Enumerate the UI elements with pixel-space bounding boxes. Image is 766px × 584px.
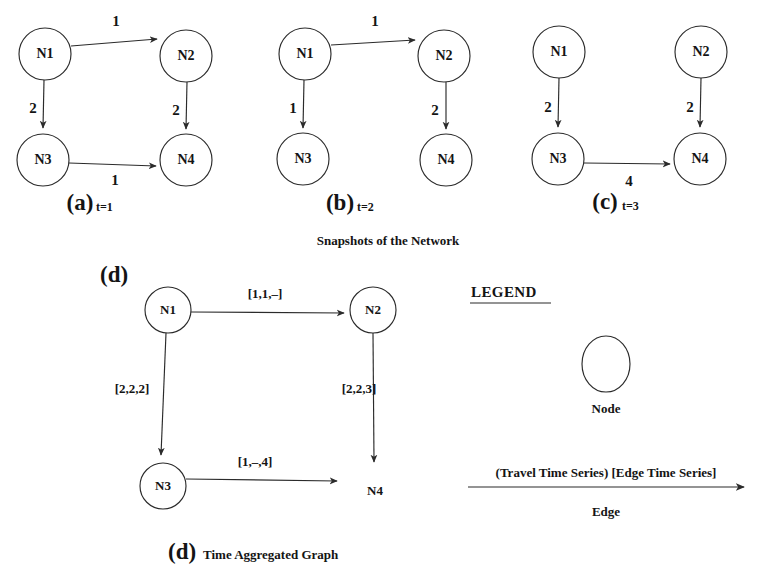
- panel-c-tag: (c): [592, 189, 618, 214]
- panel-a-node-n1-label: N1: [36, 46, 53, 61]
- panel-d-edge-n1-n3-series: [2,2,2]: [115, 381, 150, 396]
- panel-a-edge-n1-n2-weight: 1: [112, 13, 120, 29]
- panel-d-node-n1-label: N1: [160, 302, 176, 317]
- panel-d-node-n4-label: N4: [367, 483, 383, 498]
- panel-d-edge-n3-n4-series: [1,–,4]: [238, 454, 273, 469]
- legend: LEGEND Node (Travel Time Series) [Edge T…: [468, 284, 744, 519]
- panel-d-node-n3-label: N3: [155, 478, 171, 493]
- figure-canvas: N1 N2 N3 N4 1 2 2 1 (a) t=1 N1 N2: [0, 0, 766, 584]
- panel-d-edge-n3-n4: [186, 479, 337, 481]
- panel-a-edge-n2-n4-weight: 2: [172, 102, 180, 118]
- panel-b: N1 N2 N3 N4 1 1 2 (b) t=2: [277, 13, 472, 215]
- panel-a-node-n4-label: N4: [177, 152, 194, 167]
- panel-b-edge-n1-n2-weight: 1: [371, 13, 379, 29]
- panel-d-edge-n1-n2: [191, 312, 344, 313]
- panel-d-edge-n2-n4: [373, 333, 374, 462]
- panel-c-node-n4-label: N4: [691, 151, 708, 166]
- panel-b-edge-n1-n2: [331, 40, 415, 45]
- panel-a: N1 N2 N3 N4 1 2 2 1 (a) t=1: [17, 13, 212, 215]
- panel-b-node-n3-label: N3: [294, 151, 311, 166]
- panel-d-tag: (d): [100, 262, 128, 287]
- panel-b-node-n2-label: N2: [435, 48, 452, 63]
- panel-d-edge-n1-n2-series: [1,1,–]: [248, 286, 283, 301]
- panel-a-tag: (a): [67, 190, 94, 215]
- time-aggregated-graph-figure: N1 N2 N3 N4 1 2 2 1 (a) t=1 N1 N2: [0, 0, 766, 584]
- panel-d-edge-n2-n4-series: [2,2,3]: [342, 381, 377, 396]
- panel-c-time: t=3: [622, 199, 639, 213]
- legend-title: LEGEND: [471, 284, 537, 300]
- legend-edge-label: Edge: [592, 504, 620, 519]
- panel-b-time: t=2: [357, 200, 374, 214]
- panel-c-node-n1-label: N1: [550, 44, 567, 59]
- panel-d: (d) N1 N2 N3 N4 [1,1,–] [2,2,2] [2,2,3] …: [100, 262, 396, 564]
- panel-a-node-n3-label: N3: [34, 152, 51, 167]
- panel-c-edge-n1-n3: [558, 78, 559, 127]
- panel-a-edge-n3-n4: [69, 163, 156, 166]
- panel-d-caption-text: Time Aggregated Graph: [203, 547, 339, 562]
- panel-c-edge-n3-n4-weight: 4: [625, 173, 633, 189]
- panel-b-edge-n2-n4-weight: 2: [431, 102, 439, 118]
- panel-b-edge-n1-n3-weight: 1: [289, 100, 297, 116]
- legend-edge-series-label: (Travel Time Series) [Edge Time Series]: [496, 465, 717, 480]
- panel-c-node-n3-label: N3: [549, 151, 566, 166]
- panel-a-edge-n1-n3: [43, 80, 44, 128]
- panel-a-edge-n1-n3-weight: 2: [29, 100, 37, 116]
- panel-c-edge-n3-n4: [584, 163, 670, 164]
- panel-d-edge-n1-n3: [161, 333, 166, 455]
- panel-d-node-n2-label: N2: [365, 302, 381, 317]
- panel-a-time: t=1: [96, 200, 113, 214]
- snapshots-caption: Snapshots of the Network: [317, 233, 460, 248]
- panel-a-node-n2-label: N2: [177, 48, 194, 63]
- panel-a-edge-n3-n4-weight: 1: [111, 172, 119, 188]
- legend-node-label: Node: [592, 401, 621, 416]
- legend-node-shape: [582, 336, 630, 392]
- panel-a-edge-n1-n2: [71, 39, 157, 46]
- panel-d-caption-tag: (d): [168, 539, 196, 564]
- panel-c-edge-n1-n3-weight: 2: [544, 99, 552, 115]
- panel-c-edge-n2-n4: [700, 78, 701, 127]
- panel-b-node-n1-label: N1: [296, 46, 313, 61]
- panel-c-node-n2-label: N2: [692, 44, 709, 59]
- panel-c: N1 N2 N3 N4 2 2 4 (c) t=3: [532, 26, 727, 214]
- panel-c-edge-n2-n4-weight: 2: [686, 99, 694, 115]
- panel-b-edge-n1-n3: [303, 80, 304, 128]
- panel-a-edge-n2-n4: [186, 82, 187, 129]
- panel-b-tag: (b): [326, 190, 354, 215]
- panel-b-node-n4-label: N4: [437, 152, 454, 167]
